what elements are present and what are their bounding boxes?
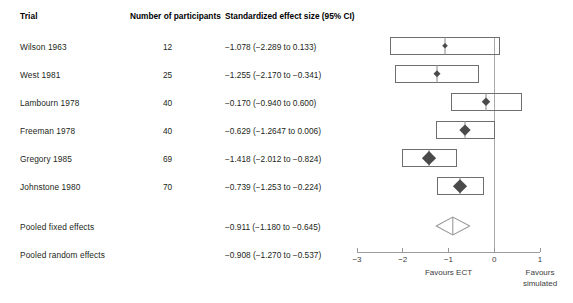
favours-right-label-line2: simulated [523, 279, 557, 290]
x-axis-tick-label: 0 [492, 255, 496, 264]
pooled-effect-diamond [435, 216, 471, 236]
null-effect-line [494, 38, 495, 252]
x-axis-tick-label: −1 [444, 255, 453, 264]
x-axis-tick-label: −2 [398, 255, 407, 264]
favours-right-label: Favourssimulated [523, 268, 557, 289]
favours-right-label-line1: Favours [523, 268, 557, 279]
forest-plot-canvas: −3−2−101Favours ECTFavourssimulated [0, 0, 573, 303]
x-axis-tick [494, 248, 495, 252]
x-axis-tick [402, 248, 403, 252]
forest-plot-figure: Trial Number of participants Standardize… [0, 0, 573, 303]
favours-left-label: Favours ECT [425, 268, 472, 279]
x-axis-line [357, 252, 540, 253]
x-axis-tick [540, 248, 541, 252]
x-axis-tick [357, 248, 358, 252]
x-axis-tick-label: 1 [538, 255, 542, 264]
x-axis-tick-label: −3 [352, 255, 361, 264]
x-axis-tick [448, 248, 449, 252]
